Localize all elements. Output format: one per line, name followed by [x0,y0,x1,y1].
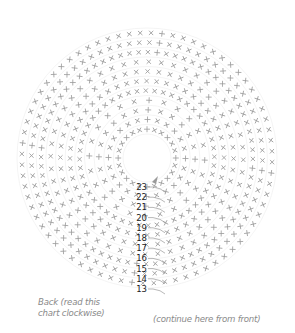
x-stitch-icon [239,169,246,176]
x-stitch-icon [28,162,35,169]
x-stitch-icon [182,66,189,73]
x-stitch-icon [171,216,178,223]
x-stitch-icon [64,121,71,128]
x-stitch-icon [205,217,210,222]
x-stitch-icon [51,87,57,93]
round-label: 14 [136,274,147,284]
x-stitch-icon [219,231,224,236]
x-stitch-icon [154,250,161,257]
round-label: 20 [136,213,147,223]
x-stitch-icon [88,54,94,60]
x-stitch-icon [111,121,116,126]
x-stitch-icon [85,122,91,128]
round-rings [17,28,277,288]
x-stitch-icon [267,137,274,144]
x-stitch-icon [215,184,222,191]
x-stitch-icon [191,94,197,100]
x-stitch-icon [155,201,162,208]
x-stitch-icon [197,113,203,119]
x-stitch-icon [239,144,246,151]
x-stitch-icon [203,187,209,193]
x-stitch-icon [90,101,95,106]
x-stitch-icon [144,48,151,55]
x-stitch-icon [151,270,158,277]
x-stitch-icon [200,142,207,149]
x-stitch-icon [81,130,88,137]
x-stitch-icon [204,56,210,62]
x-stitch-icon [180,35,187,42]
x-stitch-icon [82,182,89,189]
back-caption: Back (read this chart clockwise) [38,297,118,319]
x-stitch-icon [76,248,82,254]
x-stitch-icon [70,80,75,85]
x-stitch-icon [93,182,99,188]
x-stitch-icon [172,52,179,59]
round-number-labels: 2322212019181716151413 [136,182,147,294]
x-stitch-icon [167,248,174,255]
x-stitch-icon [169,114,175,120]
x-stitch-icon [187,116,192,121]
x-stitch-icon [121,268,128,275]
x-stitch-icon [265,126,272,133]
x-stitch-icon [222,98,228,104]
x-stitch-icon [83,109,89,115]
x-stitch-icon [77,194,83,200]
x-stitch-icon [53,241,58,246]
x-stitch-icon [204,80,210,86]
x-stitch-icon [105,88,111,94]
x-stitch-icon [124,176,129,181]
x-stitch-icon [75,236,81,242]
x-stitch-icon [236,70,241,75]
x-stitch-icon [67,212,73,218]
x-stitch-icon [43,210,49,216]
x-stitch-icon [250,221,256,227]
x-stitch-icon [124,135,129,140]
plus-stitch-icon [39,145,45,151]
x-stitch-icon [243,78,249,84]
round-label: 15 [136,264,147,274]
x-stitch-icon [240,91,246,97]
x-stitch-icon [22,183,29,190]
x-stitch-icon [126,30,133,37]
x-stitch-icon [91,197,97,203]
x-stitch-icon [243,119,250,126]
x-stitch-icon [190,38,197,45]
x-stitch-icon [205,108,211,114]
x-stitch-icon [198,101,203,106]
x-stitch-icon [255,211,262,218]
x-stitch-icon [154,231,161,238]
x-stitch-icon [60,131,67,138]
x-stitch-icon [169,169,175,175]
x-stitch-icon [225,224,231,230]
x-stitch-icon [172,128,177,133]
x-stitch-icon [125,90,132,97]
x-stitch-icon [263,116,270,123]
x-stitch-icon [268,148,275,155]
x-stitch-icon [210,144,217,151]
x-stitch-icon [240,156,247,163]
x-stitch-icon [174,106,180,112]
x-stitch-icon [237,131,244,138]
x-stitch-icon [228,108,234,114]
x-stitch-icon [54,228,60,234]
x-stitch-icon [69,198,75,204]
x-stitch-icon [163,50,170,57]
x-stitch-icon [202,120,208,126]
x-stitch-icon [260,201,267,208]
x-stitch-icon [119,169,125,175]
x-stitch-icon [79,173,86,180]
x-stitch-icon [230,155,237,162]
x-stitch-icon [40,104,47,111]
x-stitch-icon [39,135,46,142]
x-stitch-icon [171,267,178,274]
x-stitch-icon [76,156,83,163]
round-label: 21 [136,202,147,212]
x-stitch-icon [61,248,66,253]
x-stitch-icon [131,98,138,105]
x-stitch-icon [125,121,131,127]
x-stitch-icon [69,111,75,117]
x-stitch-icon [46,232,52,238]
x-stitch-icon [249,108,256,115]
x-stitch-icon [115,257,122,264]
x-stitch-icon [248,137,255,144]
